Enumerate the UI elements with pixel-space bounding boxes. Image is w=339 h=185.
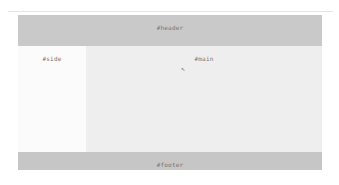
main-label: #main <box>194 55 213 62</box>
sidebar-label: #side <box>42 55 61 62</box>
footer-label: #footer <box>157 161 184 168</box>
header-region: #header <box>18 15 322 46</box>
footer-region: #footer <box>18 152 322 170</box>
page-layout-diagram: #header #side #main ↖ #footer <box>18 15 322 170</box>
main-region: #main ↖ <box>86 46 322 152</box>
header-label: #header <box>157 24 184 31</box>
top-divider <box>8 11 333 12</box>
mouse-pointer-icon: ↖ <box>181 65 185 73</box>
sidebar-region: #side <box>18 46 86 152</box>
